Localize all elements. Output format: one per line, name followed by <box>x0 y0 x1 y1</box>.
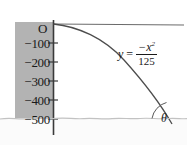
equation-numerator-base: −x <box>138 40 151 54</box>
parabola-water-diagram: O −100 −200 −300 −400 −500 y = −x2 125 θ <box>0 0 187 145</box>
tick-label-minus-500: −500 <box>16 113 50 126</box>
tick-label-minus-100: −100 <box>16 37 50 50</box>
equation-fraction: −x2 125 <box>136 41 157 67</box>
equation-numerator-exponent: 2 <box>152 40 156 48</box>
tick-label-minus-400: −400 <box>16 94 50 107</box>
tick-label-minus-300: −300 <box>16 75 50 88</box>
equation-numerator: −x2 <box>136 41 157 54</box>
horizontal-reference-line <box>53 24 184 25</box>
tick-label-minus-200: −200 <box>16 56 50 69</box>
theta-angle-label: θ <box>161 112 167 124</box>
equation-denominator: 125 <box>136 55 157 67</box>
origin-label: O <box>38 22 47 35</box>
curve-equation-label: y = −x2 125 <box>118 41 157 67</box>
parabola-curve <box>54 24 173 124</box>
equation-lhs: y <box>118 47 123 62</box>
equation-equals-sign: = <box>126 47 133 62</box>
